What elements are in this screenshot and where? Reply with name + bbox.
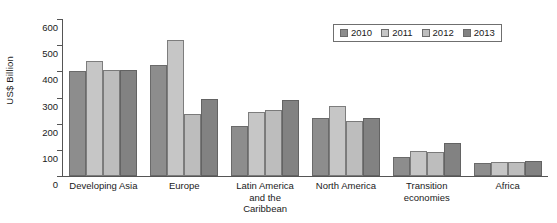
bar[interactable] [508,162,525,176]
bar[interactable] [69,71,86,176]
bar[interactable] [474,163,491,176]
bar[interactable] [346,121,363,176]
bar[interactable] [444,143,461,176]
legend-swatch-icon [422,29,430,37]
legend-item[interactable]: 2012 [422,28,454,38]
legend-swatch-icon [340,29,348,37]
x-tick-label-line: economies [376,192,477,204]
bar-group [467,19,548,176]
x-tick-label-line: Africa [457,180,557,192]
bar[interactable] [491,162,508,176]
bar[interactable] [120,70,137,176]
bar-group [225,19,306,176]
x-axis-line [62,176,548,177]
legend-swatch-icon [463,29,471,37]
y-tick-label: 200 [42,128,58,138]
y-tick-label: 100 [42,154,58,164]
y-axis-title: US$ Billion [4,56,18,105]
legend-swatch-icon [381,29,389,37]
x-tick-label-line: Caribbean [215,203,316,215]
legend-label: 2012 [433,28,454,38]
bar[interactable] [248,112,265,176]
legend-item[interactable]: 2011 [381,28,412,38]
bar-group [306,19,387,176]
bar[interactable] [410,151,427,176]
bar[interactable] [282,100,299,176]
bar[interactable] [312,118,329,176]
y-tick-mark [57,45,62,46]
x-axis-category-labels: Developing AsiaEuropeLatin Americaand th… [63,180,548,223]
bar-group [144,19,225,176]
y-tick-mark [57,98,62,99]
y-tick-label: 300 [42,102,58,112]
bar[interactable] [103,70,120,176]
bar[interactable] [86,61,103,176]
bar[interactable] [363,118,380,176]
legend-label: 2010 [351,28,372,38]
bar[interactable] [329,106,346,176]
legend-item[interactable]: 2010 [340,28,372,38]
x-tick-label-line: and the [215,192,316,204]
chart-legend: 2010201120122013 [333,24,502,42]
bar[interactable] [231,126,248,176]
plot-area [63,19,548,176]
legend-item[interactable]: 2013 [463,28,495,38]
bar-group [63,19,144,176]
x-tick-label: Africa [457,180,557,192]
bar[interactable] [393,157,410,176]
y-tick-mark [57,19,62,20]
y-axis-tick-labels: 6005004003002001000 [30,14,58,182]
bar[interactable] [184,114,201,176]
y-tick-label: 500 [42,49,58,59]
y-tick-mark [57,71,62,72]
y-tick-mark [57,124,62,125]
bar-group [386,19,467,176]
bar[interactable] [265,110,282,176]
bar[interactable] [167,40,184,176]
bar[interactable] [201,99,218,176]
bar[interactable] [525,161,542,176]
legend-label: 2013 [474,28,495,38]
bar[interactable] [150,65,167,176]
y-tick-label: 400 [42,75,58,85]
bar-chart: US$ Billion 6005004003002001000 Developi… [0,0,557,223]
y-tick-mark [57,150,62,151]
y-tick-mark [57,176,62,177]
bar[interactable] [427,152,444,176]
legend-label: 2011 [392,28,412,38]
y-tick-label: 600 [42,23,58,33]
